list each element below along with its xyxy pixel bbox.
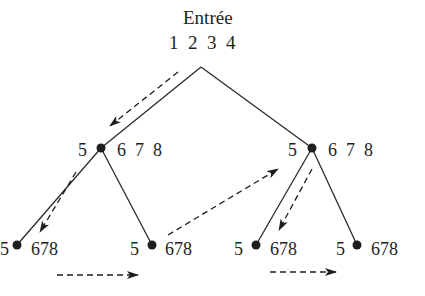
- tree-nodes: [13, 144, 362, 250]
- mid-left-right-label: 6 7 8: [117, 141, 162, 159]
- arrow-mid-right-to-leaf-3: [279, 169, 312, 230]
- edge-mid-right-to-leaf-4: [312, 148, 357, 245]
- tree-diagram: Entrée 1 2 3 4 5 6 7 8 5 6 7 8 5 678 5 6…: [0, 0, 425, 296]
- leaf-4-right-label: 678: [371, 240, 398, 258]
- arrow-leaf-2-to-mid-right: [168, 169, 278, 235]
- leaf-3-right-label: 678: [270, 240, 297, 258]
- edge-mid-right-to-leaf-3: [256, 148, 312, 245]
- leaf-2-right-label: 678: [165, 240, 192, 258]
- node-leaf-2: [148, 241, 157, 250]
- edge-mid-left-to-leaf-2: [101, 148, 152, 245]
- mid-right-right-label: 6 7 8: [328, 141, 373, 159]
- leaf-1-left-label: 5: [0, 240, 9, 258]
- tree-edges: [17, 67, 357, 245]
- input-values: 1 2 3 4: [169, 33, 236, 52]
- node-mid-left: [97, 144, 106, 153]
- leaf-2-left-label: 5: [130, 240, 139, 258]
- diagram-title: Entrée: [183, 8, 233, 27]
- edge-root-to-mid-right: [201, 67, 312, 148]
- mid-right-left-label: 5: [288, 141, 297, 159]
- edge-mid-left-to-leaf-1: [17, 148, 101, 245]
- leaf-4-left-label: 5: [336, 240, 345, 258]
- arrow-root-to-mid-left: [110, 72, 178, 126]
- node-mid-right: [308, 144, 317, 153]
- node-leaf-4: [353, 241, 362, 250]
- node-leaf-3: [252, 241, 261, 250]
- leaf-1-right-label: 678: [31, 240, 58, 258]
- leaf-3-left-label: 5: [234, 240, 243, 258]
- node-leaf-1: [13, 241, 22, 250]
- mid-left-left-label: 5: [78, 141, 87, 159]
- edge-root-to-mid-left: [101, 67, 201, 148]
- arrow-mid-left-to-leaf-1: [40, 172, 76, 232]
